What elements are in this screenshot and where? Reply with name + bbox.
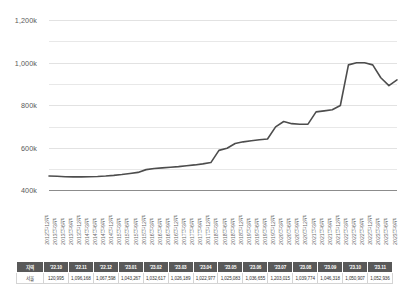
table-col-header-month: '23.05 (218, 262, 243, 273)
table-header-row: 지역'22.10'22.11'22.12'23.01'23.02'23.03'2… (17, 262, 393, 273)
y-tick-label-400k: 400k (0, 186, 37, 195)
chart-page: 1,200k 1,000k 800k 600k 400k 2012년 12월20… (0, 0, 409, 299)
series-seoul (49, 20, 397, 191)
table-cell-region: 서울 (17, 273, 44, 284)
table-cell-value: 1,046,318 (318, 273, 343, 284)
plot-area: 1,200k 1,000k 800k 600k 400k (49, 20, 397, 191)
data-table: 지역'22.10'22.11'22.12'23.01'23.02'23.03'2… (16, 261, 393, 284)
data-table-wrapper: 지역'22.10'22.11'22.12'23.01'23.02'23.03'2… (16, 261, 393, 284)
y-tick-label-1000k: 1,000k (0, 59, 37, 68)
table-cell-value: 1,067,598 (93, 273, 118, 284)
table-cell-value: 1,039,774 (293, 273, 318, 284)
table-col-header-month: '22.10 (44, 262, 69, 273)
table-col-header-month: '23.06 (243, 262, 268, 273)
table-body: 서울120,9951,096,1681,067,5981,043,2671,03… (17, 273, 393, 284)
y-tick-label-800k: 800k (0, 101, 37, 110)
y-tick-label-1200k: 1,200k (0, 16, 37, 25)
table-row: 서울120,9951,096,1681,067,5981,043,2671,03… (17, 273, 393, 284)
table-col-header-month: '23.10 (343, 262, 368, 273)
table-col-header-month: '23.09 (318, 262, 343, 273)
table-col-header-month: '23.11 (367, 262, 392, 273)
table-cell-value: 1,036,655 (243, 273, 268, 284)
y-tick-label-600k: 600k (0, 144, 37, 153)
table-col-header-month: '22.11 (68, 262, 93, 273)
table-cell-value: 1,032,617 (143, 273, 168, 284)
table-cell-value: 1,096,168 (68, 273, 93, 284)
table-cell-value: 1,022,977 (193, 273, 218, 284)
table-col-header-month: '23.08 (293, 262, 318, 273)
table-cell-value: 1,203,015 (268, 273, 293, 284)
table-cell-value: 1,025,083 (218, 273, 243, 284)
table-col-header-month: '23.03 (168, 262, 193, 273)
table-col-header-month: '23.04 (193, 262, 218, 273)
x-tick-label: 2023년 9월 (393, 219, 402, 245)
table-cell-value: 1,026,189 (168, 273, 193, 284)
line-chart: 1,200k 1,000k 800k 600k 400k 2012년 12월20… (0, 0, 409, 200)
table-cell-value: 1,043,267 (118, 273, 143, 284)
table-col-header-month: '23.02 (143, 262, 168, 273)
table-col-header-month: '23.07 (268, 262, 293, 273)
table-cell-value: 1,052,936 (367, 273, 392, 284)
x-axis-labels: 2012년 12월2013년 3월2013년 6월2013년 9월2013년 1… (49, 193, 397, 245)
table-cell-value: 120,995 (44, 273, 69, 284)
table-cell-value: 1,050,907 (343, 273, 368, 284)
table-col-header-month: '22.12 (93, 262, 118, 273)
table-col-header-region: 지역 (17, 262, 44, 273)
table-col-header-month: '23.01 (118, 262, 143, 273)
